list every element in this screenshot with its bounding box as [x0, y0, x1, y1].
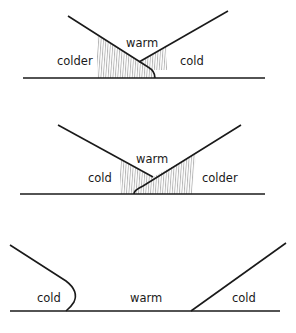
panel-2: cold warm colder: [20, 125, 265, 194]
label-right: cold: [232, 291, 256, 305]
panel-3: cold warm cold: [10, 243, 286, 311]
label-right: cold: [180, 54, 204, 68]
cold-front-boundary: [58, 125, 153, 177]
label-left: cold: [37, 291, 61, 305]
label-center: warm: [130, 291, 162, 305]
occluded-front-diagram: colder warm cold cold warm colder cold w…: [0, 0, 296, 333]
label-center: warm: [136, 152, 168, 166]
label-left: colder: [57, 54, 93, 68]
panel-1: colder warm cold: [23, 11, 265, 78]
label-center: warm: [126, 36, 158, 50]
label-left: cold: [88, 171, 112, 185]
label-right: colder: [202, 171, 238, 185]
